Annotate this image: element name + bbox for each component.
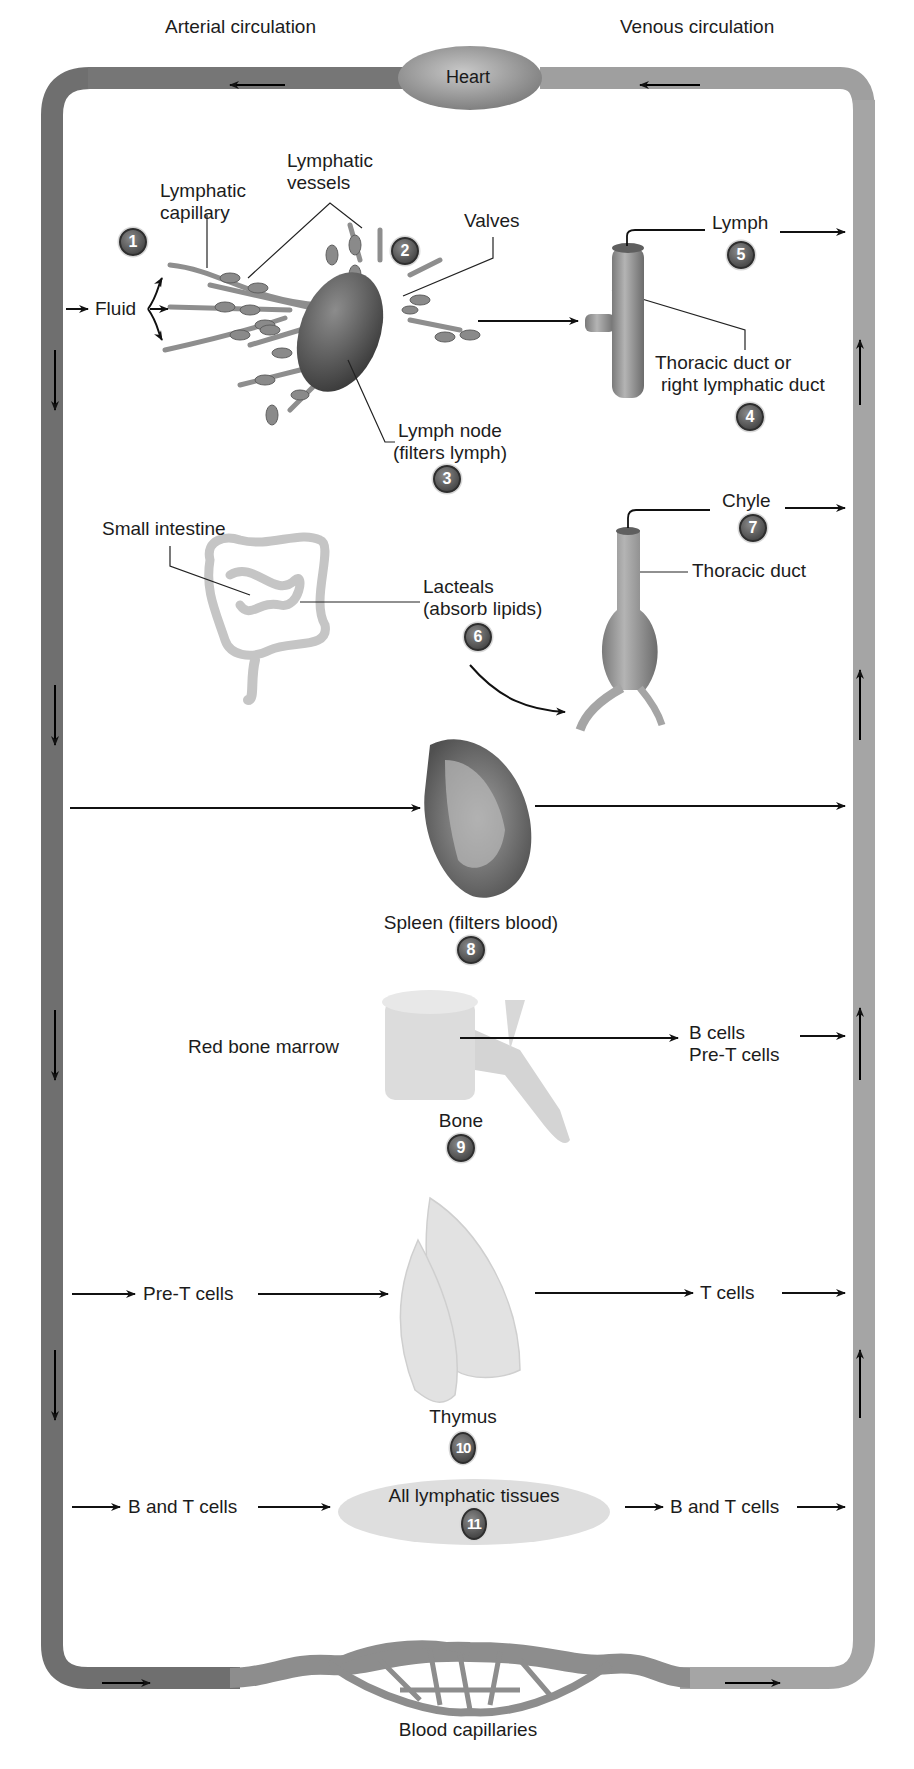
thoracic-duct-label: Thoracic duct [692, 560, 806, 582]
step-badge-4: 4 [736, 403, 764, 431]
lacteals-to-duct-arrow [470, 665, 565, 712]
step-badge-6: 6 [464, 623, 492, 651]
pre-t-cells-input-label: Pre-T cells [143, 1283, 233, 1305]
duct-label-1: Thoracic duct or [655, 352, 791, 374]
blood-capillaries-label: Blood capillaries [399, 1719, 537, 1741]
lymph-leader-line [627, 230, 705, 246]
valves-label: Valves [464, 210, 520, 232]
chyle-leader-line [628, 510, 710, 528]
red-bone-marrow-label: Red bone marrow [188, 1036, 339, 1058]
all-lymphatic-tissues-label: All lymphatic tissues [388, 1485, 559, 1507]
step-badge-1: 1 [119, 228, 147, 256]
lymphatic-vessels-label-1: Lymphatic [287, 150, 373, 172]
bone-label: Bone [439, 1110, 483, 1132]
fluid-label: Fluid [95, 298, 136, 320]
pre-t-cells-output-label: Pre-T cells [689, 1044, 779, 1066]
lacteals-label-2: (absorb lipids) [423, 598, 542, 620]
thymus-illustration [400, 1198, 520, 1402]
thoracic-duct-illustration [580, 527, 662, 730]
step-badge-7: 7 [739, 514, 767, 542]
small-intestine-illustration [209, 537, 326, 700]
lymph-node-label-1: Lymph node [398, 420, 502, 442]
thymus-label: Thymus [429, 1406, 497, 1428]
chyle-label: Chyle [722, 490, 771, 512]
lymphatic-capillary-label-2: capillary [160, 202, 230, 224]
b-and-t-cells-output-label: B and T cells [670, 1496, 779, 1518]
lymphatic-vessels-label-2: vessels [287, 172, 350, 194]
step-badge-3: 3 [433, 465, 461, 493]
lymph-node-label-2: (filters lymph) [393, 442, 507, 464]
b-cells-label: B cells [689, 1022, 745, 1044]
lymphatic-system-diagram: Arterial circulation Venous circulation … [0, 0, 914, 1769]
heart-label: Heart [446, 67, 490, 88]
lymphatic-duct-illustration [585, 243, 644, 398]
circulation-loop [52, 78, 864, 1712]
lymph-label: Lymph [712, 212, 768, 234]
small-intestine-label: Small intestine [102, 518, 226, 540]
b-and-t-cells-input-label: B and T cells [128, 1496, 237, 1518]
venous-circulation-label: Venous circulation [620, 16, 774, 38]
lymphatic-capillary-label-1: Lymphatic [160, 180, 246, 202]
step-badge-2: 2 [391, 237, 419, 265]
lymph-node-illustration [165, 225, 480, 425]
step-badge-10: 10 [450, 1432, 476, 1464]
step-badge-11: 11 [461, 1508, 487, 1540]
lacteals-label-1: Lacteals [423, 576, 494, 598]
step-badge-8: 8 [457, 936, 485, 964]
leader-lines [207, 203, 745, 442]
step-badge-9: 9 [447, 1134, 475, 1162]
arterial-circulation-label: Arterial circulation [165, 16, 316, 38]
step-badge-5: 5 [727, 241, 755, 269]
spleen-label: Spleen (filters blood) [384, 912, 558, 934]
t-cells-label: T cells [700, 1282, 755, 1304]
duct-label-2: right lymphatic duct [661, 374, 825, 396]
